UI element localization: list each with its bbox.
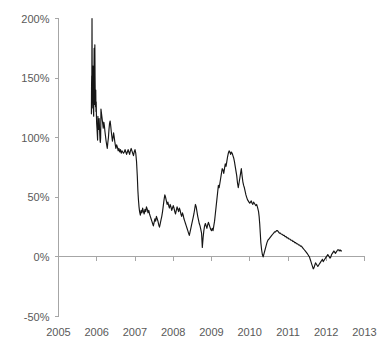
y-tick-label: 150%: [21, 72, 49, 84]
x-tick-label: 2005: [46, 326, 70, 338]
x-axis-tick-labels: 200520062007200820092010201120122013: [46, 326, 376, 338]
y-axis-tick-labels: -50%0%50%100%150%200%: [21, 13, 49, 323]
y-tick-label: 50%: [27, 191, 49, 203]
x-tick-label: 2012: [314, 326, 338, 338]
yield-spread-line-chart: -50%0%50%100%150%200% 200520062007200820…: [0, 0, 385, 350]
x-tick-label: 2010: [238, 326, 262, 338]
y-tick-label: 200%: [21, 13, 49, 25]
y-tick-label: 0%: [34, 251, 50, 263]
chart-container: -50%0%50%100%150%200% 200520062007200820…: [0, 0, 385, 350]
x-tick-label: 2007: [123, 326, 147, 338]
x-tick-label: 2006: [85, 326, 109, 338]
y-tick-label: 100%: [21, 132, 49, 144]
x-tick-label: 2013: [352, 326, 376, 338]
data-series-line: [91, 19, 341, 269]
x-tick-label: 2009: [199, 326, 223, 338]
x-tick-label: 2008: [161, 326, 185, 338]
y-tick-label: -50%: [24, 311, 50, 323]
y-axis-tick-marks: [55, 19, 59, 317]
x-tick-label: 2011: [276, 326, 300, 338]
